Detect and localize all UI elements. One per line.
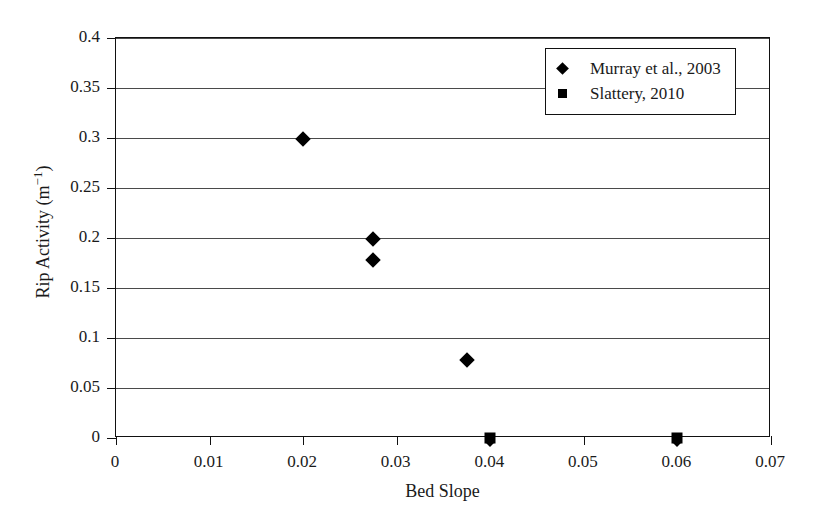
diamond-marker-icon [556, 62, 569, 75]
x-tick-label: 0.07 [755, 452, 785, 472]
y-tick-label: 0.05 [70, 377, 100, 397]
y-axis-title-close: ) [33, 166, 53, 172]
y-tick-label: 0.3 [79, 127, 100, 147]
y-tick-label: 0 [92, 427, 101, 447]
x-tick-label: 0.04 [474, 452, 504, 472]
y-axis-title: Rip Activity (m−1) [30, 82, 54, 382]
y-tick-label: 0.1 [79, 327, 100, 347]
y-tick-mark [107, 238, 116, 239]
legend-item: Slattery, 2010 [558, 81, 721, 106]
square-marker-icon [558, 89, 567, 98]
data-point-square [672, 433, 683, 444]
gridline [116, 38, 769, 39]
y-tick-label: 0.35 [70, 77, 100, 97]
y-tick-mark [107, 388, 116, 389]
x-axis-tick-labels: 00.010.020.030.040.050.060.07 [115, 452, 770, 478]
data-point-diamond [295, 131, 311, 147]
y-tick-mark [107, 188, 116, 189]
x-tick-label: 0 [111, 452, 120, 472]
y-tick-mark [107, 438, 116, 439]
x-tick-mark [303, 436, 304, 445]
legend-square-icon [558, 89, 580, 98]
x-tick-mark [116, 436, 117, 445]
y-axis-title-exponent: −1 [30, 172, 45, 186]
y-tick-mark [107, 338, 116, 339]
gridline [116, 188, 769, 189]
legend-item-label: Murray et al., 2003 [590, 60, 721, 77]
legend-diamond-icon [558, 64, 580, 73]
y-tick-mark [107, 288, 116, 289]
data-point-square [485, 433, 496, 444]
y-tick-mark [107, 88, 116, 89]
x-tick-mark [397, 436, 398, 445]
scatter-chart-figure: 00.050.10.150.20.250.30.350.4 00.010.020… [0, 0, 826, 521]
data-point-diamond [366, 252, 382, 268]
legend-item-label: Slattery, 2010 [590, 85, 684, 102]
y-tick-label: 0.25 [70, 177, 100, 197]
x-tick-label: 0.02 [287, 452, 317, 472]
y-tick-mark [107, 38, 116, 39]
legend-item: Murray et al., 2003 [558, 56, 721, 81]
x-tick-label: 0.05 [568, 452, 598, 472]
x-tick-mark [584, 436, 585, 445]
x-tick-label: 0.01 [194, 452, 224, 472]
x-tick-mark [210, 436, 211, 445]
x-tick-label: 0.03 [381, 452, 411, 472]
data-point-diamond [366, 231, 382, 247]
y-tick-mark [107, 138, 116, 139]
legend: Murray et al., 2003Slattery, 2010 [545, 48, 736, 115]
gridline [116, 138, 769, 139]
x-axis-title: Bed Slope [115, 481, 770, 502]
y-tick-label: 0.15 [70, 277, 100, 297]
x-tick-mark [771, 436, 772, 445]
y-tick-label: 0.4 [79, 27, 100, 47]
gridline [116, 338, 769, 339]
x-tick-label: 0.06 [662, 452, 692, 472]
data-point-diamond [459, 352, 475, 368]
gridline [116, 238, 769, 239]
y-axis-title-base: Rip Activity (m [33, 185, 53, 298]
gridline [116, 288, 769, 289]
y-tick-label: 0.2 [79, 227, 100, 247]
gridline [116, 388, 769, 389]
